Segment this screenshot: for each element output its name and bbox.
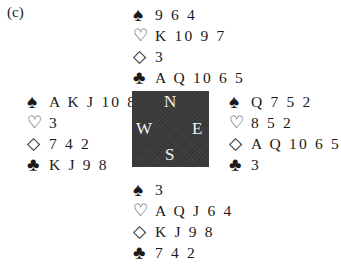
club-icon: ♣ xyxy=(133,242,155,263)
west-spades: A K J 10 8 xyxy=(49,91,137,112)
east-clubs: 3 xyxy=(251,154,261,175)
east-hearts: 8 5 2 xyxy=(251,112,293,133)
north-clubs: A Q 10 6 5 xyxy=(155,67,245,88)
south-clubs-row: ♣7 4 2 xyxy=(133,242,233,263)
east-diamonds: A Q 10 6 5 xyxy=(251,133,341,154)
compass-table: N W E S xyxy=(132,91,209,167)
east-spades: Q 7 5 2 xyxy=(251,91,312,112)
north-hand: ♠9 6 4 ♡K 10 9 7 ◇3 ♣A Q 10 6 5 xyxy=(133,4,245,88)
north-clubs-row: ♣A Q 10 6 5 xyxy=(133,67,245,88)
east-spades-row: ♠Q 7 5 2 xyxy=(229,91,341,112)
club-icon: ♣ xyxy=(27,154,49,175)
diamond-icon: ◇ xyxy=(229,133,251,154)
east-clubs-row: ♣3 xyxy=(229,154,341,175)
north-spades: 9 6 4 xyxy=(155,4,197,25)
diamond-icon: ◇ xyxy=(27,133,49,154)
heart-icon: ♡ xyxy=(229,112,251,133)
west-hearts: 3 xyxy=(49,112,59,133)
north-diamonds: 3 xyxy=(155,46,165,67)
spade-icon: ♠ xyxy=(133,179,155,200)
west-diamonds: 7 4 2 xyxy=(49,133,91,154)
west-diamonds-row: ◇7 4 2 xyxy=(27,133,137,154)
north-diamonds-row: ◇3 xyxy=(133,46,245,67)
west-spades-row: ♠A K J 10 8 xyxy=(27,91,137,112)
diamond-icon: ◇ xyxy=(133,221,155,242)
heart-icon: ♡ xyxy=(27,112,49,133)
compass-south: S xyxy=(165,145,174,165)
south-hearts: A Q J 6 4 xyxy=(155,200,233,221)
club-icon: ♣ xyxy=(229,154,251,175)
club-icon: ♣ xyxy=(133,67,155,88)
south-spades: 3 xyxy=(155,179,165,200)
west-clubs-row: ♣K J 9 8 xyxy=(27,154,137,175)
west-hearts-row: ♡3 xyxy=(27,112,137,133)
spade-icon: ♠ xyxy=(229,91,251,112)
south-hand: ♠3 ♡A Q J 6 4 ◇K J 9 8 ♣7 4 2 xyxy=(133,179,233,263)
south-diamonds-row: ◇K J 9 8 xyxy=(133,221,233,242)
diagram-label: (c) xyxy=(7,4,24,21)
west-hand: ♠A K J 10 8 ♡3 ◇7 4 2 ♣K J 9 8 xyxy=(27,91,137,175)
south-spades-row: ♠3 xyxy=(133,179,233,200)
spade-icon: ♠ xyxy=(133,4,155,25)
compass-north: N xyxy=(164,92,176,112)
heart-icon: ♡ xyxy=(133,25,155,46)
west-clubs: K J 9 8 xyxy=(49,154,109,175)
east-diamonds-row: ◇A Q 10 6 5 xyxy=(229,133,341,154)
south-clubs: 7 4 2 xyxy=(155,242,197,263)
north-hearts-row: ♡K 10 9 7 xyxy=(133,25,245,46)
diamond-icon: ◇ xyxy=(133,46,155,67)
compass-west: W xyxy=(136,119,152,139)
north-spades-row: ♠9 6 4 xyxy=(133,4,245,25)
south-diamonds: K J 9 8 xyxy=(155,221,215,242)
east-hearts-row: ♡8 5 2 xyxy=(229,112,341,133)
spade-icon: ♠ xyxy=(27,91,49,112)
east-hand: ♠Q 7 5 2 ♡8 5 2 ◇A Q 10 6 5 ♣3 xyxy=(229,91,341,175)
north-hearts: K 10 9 7 xyxy=(155,25,226,46)
compass-east: E xyxy=(192,119,202,139)
south-hearts-row: ♡A Q J 6 4 xyxy=(133,200,233,221)
heart-icon: ♡ xyxy=(133,200,155,221)
